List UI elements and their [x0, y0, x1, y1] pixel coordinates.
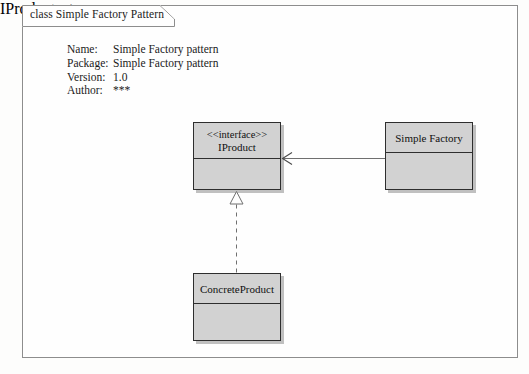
metadata-value: Simple Factory pattern — [113, 57, 218, 71]
class-header: <<interface>> IProduct — [194, 123, 280, 159]
frame-title-label: class Simple Factory Pattern — [30, 8, 164, 20]
class-header: Simple Factory — [386, 123, 472, 153]
class-box-simple-factory[interactable]: Simple Factory — [385, 122, 473, 190]
class-stereotype: <<interface>> — [207, 129, 267, 142]
metadata-key: Package: — [67, 57, 113, 71]
class-name: ConcreteProduct — [200, 283, 274, 296]
class-name: IProduct — [218, 141, 256, 154]
diagram-canvas: class Simple Factory Pattern Name:Simple… — [0, 0, 529, 374]
metadata-key: Version: — [67, 71, 113, 85]
class-box-iproduct[interactable]: <<interface>> IProduct — [193, 122, 281, 190]
class-box-concreteproduct[interactable]: ConcreteProduct — [193, 273, 281, 341]
class-name: Simple Factory — [395, 132, 463, 145]
frame-title-tab: class Simple Factory Pattern — [22, 5, 175, 27]
metadata-key: Name: — [67, 43, 113, 57]
metadata-row: Package:Simple Factory pattern — [67, 57, 218, 71]
metadata-row: Version:1.0 — [67, 71, 218, 85]
diagram-metadata: Name:Simple Factory pattern Package:Simp… — [67, 43, 218, 98]
realization-triangle-icon — [222, 190, 252, 275]
metadata-value: Simple Factory pattern — [113, 43, 218, 57]
class-members-compartment — [194, 304, 280, 370]
dependency-arrow-icon — [281, 148, 387, 170]
metadata-row: Author:*** — [67, 84, 218, 98]
connector-realization-concrete-to-iproduct[interactable] — [222, 190, 252, 275]
connector-dependency-factory-to-iproduct[interactable] — [281, 148, 387, 170]
metadata-key: Author: — [67, 84, 113, 98]
class-members-compartment — [386, 153, 472, 219]
metadata-value: *** — [113, 84, 130, 98]
metadata-value: 1.0 — [113, 71, 127, 85]
class-header: ConcreteProduct — [194, 274, 280, 304]
metadata-row: Name:Simple Factory pattern — [67, 43, 218, 57]
